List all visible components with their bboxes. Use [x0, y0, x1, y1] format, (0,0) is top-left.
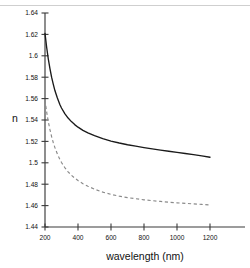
upper-dispersion-curve — [45, 33, 210, 157]
y-tick-label: 1.48 — [25, 181, 38, 188]
y-tick-label: 1.56 — [25, 95, 38, 102]
x-tick-label: 1200 — [203, 234, 218, 241]
y-tick-label: 1.54 — [25, 116, 38, 123]
x-axis-group: 20040060080010001200 — [39, 224, 245, 242]
y-tick-label: 1.58 — [25, 74, 38, 81]
y-tick-label: 1.46 — [25, 202, 38, 209]
x-tick-label: 800 — [138, 234, 149, 241]
y-tick-label: 1.44 — [25, 223, 38, 230]
y-tick-label: 1.6 — [29, 52, 38, 59]
y-tick-label: 1.62 — [25, 31, 38, 38]
y-axis-title: n — [12, 112, 18, 124]
x-tick-label: 200 — [39, 234, 50, 241]
data-series-layer — [45, 33, 210, 205]
lower-dispersion-curve — [45, 100, 210, 205]
y-tick-label: 1.52 — [25, 138, 38, 145]
dispersion-chart: 1.441.461.481.51.521.541.561.581.61.621.… — [0, 0, 250, 268]
y-axis-group: 1.441.461.481.51.521.541.561.581.61.621.… — [25, 9, 48, 230]
chart-figure: 1.441.461.481.51.521.541.561.581.61.621.… — [0, 0, 250, 268]
y-axis-tick-labels: 1.441.461.481.51.521.541.561.581.61.621.… — [25, 9, 38, 230]
y-tick-label: 1.64 — [25, 9, 38, 16]
x-tick-label: 600 — [105, 234, 116, 241]
x-tick-label: 1000 — [170, 234, 185, 241]
y-tick-label: 1.5 — [29, 159, 38, 166]
x-axis-tick-labels: 20040060080010001200 — [39, 234, 217, 241]
x-tick-label: 400 — [72, 234, 83, 241]
x-axis-title: wavelength (nm) — [105, 250, 184, 262]
